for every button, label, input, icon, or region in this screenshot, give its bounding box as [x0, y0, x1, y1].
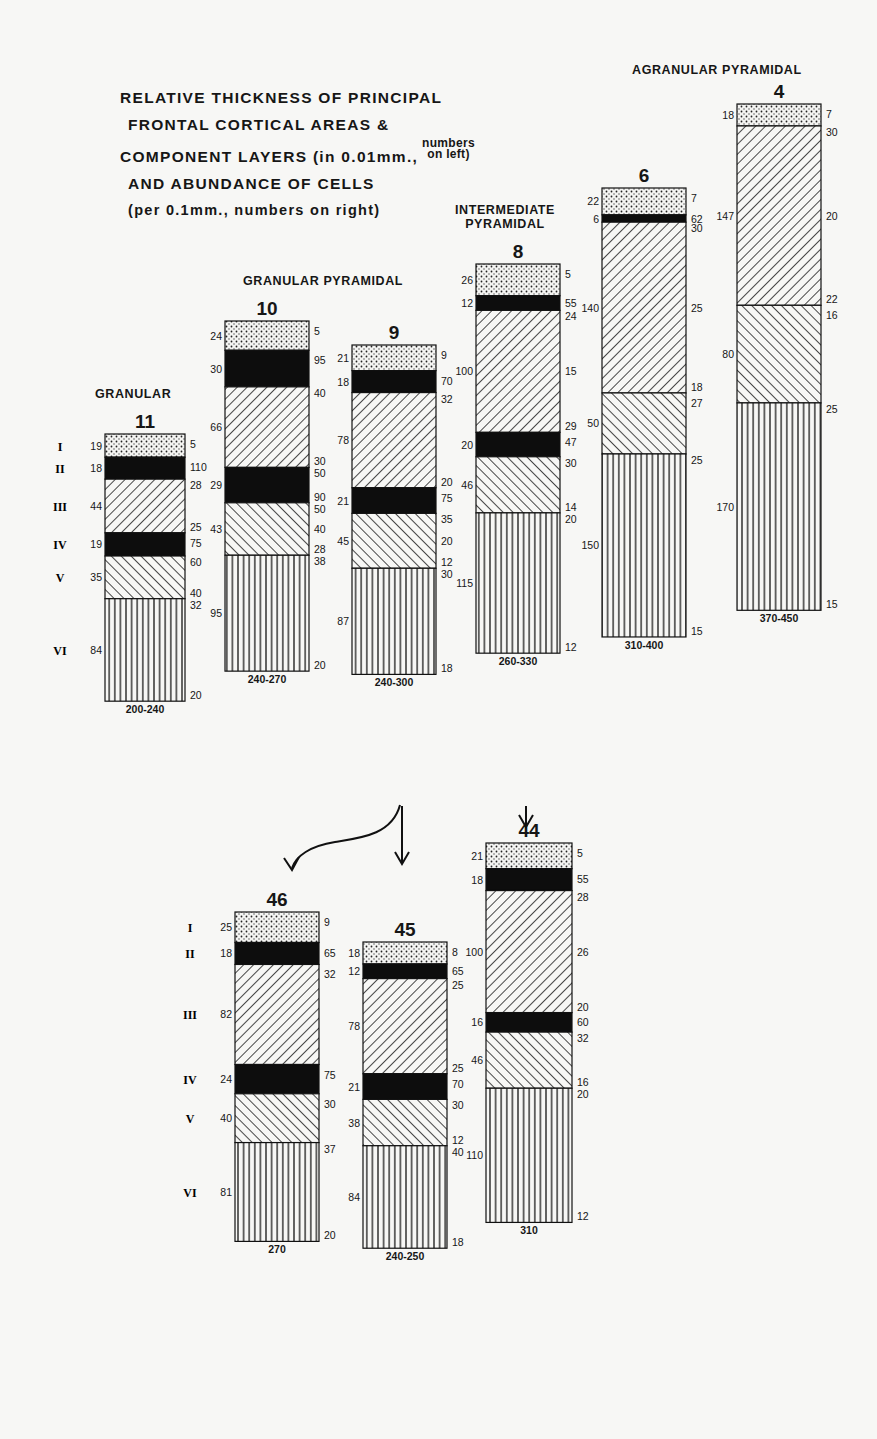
layer-thickness-label: 147 — [716, 210, 734, 222]
cell-count-label: 50 — [314, 467, 326, 479]
layer-II-band — [602, 215, 686, 222]
layer-II-band — [363, 964, 447, 979]
layer-thickness-label: 20 — [461, 439, 473, 451]
cell-count-label: 7 — [691, 192, 697, 204]
cell-count-label: 35 — [441, 513, 453, 525]
layer-thickness-label: 45 — [337, 535, 349, 547]
cell-count-label: 22 — [826, 293, 838, 305]
cell-count-label: 25 — [691, 302, 703, 314]
area-number: 6 — [639, 165, 650, 186]
cell-count-label: 37 — [324, 1143, 336, 1155]
layer-thickness-label: 38 — [348, 1117, 360, 1129]
arrow-9-to-46 — [292, 805, 400, 868]
column-area-46: 46259I1865II8232III2475IV4030V813720VI27… — [183, 889, 336, 1255]
cell-count-label: 20 — [441, 535, 453, 547]
column-area-6: 622766214030251850271502515310-400 — [581, 165, 702, 651]
layer-II-band — [225, 350, 309, 387]
layer-thickness-label: 100 — [465, 946, 483, 958]
layer-thickness-label: 21 — [471, 850, 483, 862]
cell-count-label: 65 — [452, 965, 464, 977]
total-thickness-label: 240-300 — [375, 676, 414, 688]
cell-count-label: 30 — [452, 1099, 464, 1111]
layer-thickness-label: 110 — [466, 1149, 483, 1161]
layer-thickness-label: 6 — [593, 213, 599, 225]
layer-I-band — [105, 434, 185, 457]
layer-thickness-label: 170 — [716, 501, 734, 513]
layer-thickness-label: 140 — [581, 302, 599, 314]
cell-count-label: 12 — [452, 1134, 464, 1146]
layer-thickness-label: 16 — [471, 1016, 483, 1028]
cell-count-label: 12 — [577, 1210, 589, 1222]
cell-count-label: 47 — [565, 436, 577, 448]
cell-count-label: 65 — [324, 947, 336, 959]
layer-IV-band — [352, 488, 436, 514]
layer-VI-band — [225, 555, 309, 671]
total-thickness-label: 370-450 — [760, 612, 799, 624]
layer-III-band — [352, 393, 436, 488]
layer-VI-band — [737, 403, 821, 610]
roman-numeral-IV: IV — [183, 1073, 197, 1087]
layer-thickness-label: 84 — [348, 1191, 360, 1203]
layer-thickness-label: 18 — [471, 874, 483, 886]
cell-count-label: 40 — [314, 387, 326, 399]
area-number: 10 — [256, 298, 277, 319]
layer-IV-band — [486, 1013, 572, 1033]
layer-VI-band — [235, 1143, 319, 1242]
layer-IV-band — [363, 1074, 447, 1100]
cell-count-label: 20 — [190, 689, 202, 701]
layer-thickness-label: 21 — [337, 352, 349, 364]
layer-thickness-label: 66 — [210, 421, 222, 433]
cell-count-label: 30 — [441, 568, 453, 580]
layer-III-band — [602, 222, 686, 393]
layer-thickness-label: 29 — [210, 479, 222, 491]
cell-count-label: 30 — [314, 455, 326, 467]
layer-III-band — [105, 479, 185, 533]
cell-count-label: 40 — [190, 587, 202, 599]
layer-thickness-label: 82 — [220, 1008, 232, 1020]
cell-count-label: 32 — [441, 393, 453, 405]
layer-thickness-label: 19 — [90, 538, 102, 550]
cell-count-label: 15 — [826, 598, 838, 610]
roman-numeral-II: II — [55, 462, 65, 476]
cell-count-label: 7 — [826, 108, 832, 120]
area-number: 11 — [135, 411, 156, 432]
cell-count-label: 60 — [577, 1016, 589, 1028]
layer-thickness-label: 87 — [337, 615, 349, 627]
layer-thickness-label: 115 — [456, 577, 473, 589]
roman-numeral-VI: VI — [53, 644, 67, 658]
cell-count-label: 16 — [826, 309, 838, 321]
layer-IV-band — [235, 1065, 319, 1094]
cell-count-label: 5 — [314, 325, 320, 337]
layer-VI-band — [363, 1146, 447, 1248]
layer-thickness-label: 30 — [210, 363, 222, 375]
cell-count-label: 40 — [452, 1146, 464, 1158]
total-thickness-label: 260-330 — [499, 655, 538, 667]
layer-thickness-label: 46 — [471, 1054, 483, 1066]
roman-numeral-V: V — [56, 571, 65, 585]
area-number: 9 — [389, 322, 400, 343]
cell-count-label: 18 — [441, 662, 453, 674]
layer-thickness-label: 50 — [587, 417, 599, 429]
roman-numeral-IV: IV — [53, 538, 67, 552]
layer-thickness-label: 150 — [581, 539, 599, 551]
layer-IV-band — [105, 533, 185, 556]
layer-V-band — [105, 556, 185, 599]
cell-count-label: 9 — [441, 349, 447, 361]
layer-I-band — [602, 188, 686, 215]
roman-numeral-VI: VI — [183, 1186, 197, 1200]
layer-thickness-label: 19 — [90, 440, 102, 452]
layer-thickness-label: 100 — [455, 365, 473, 377]
layer-thickness-label: 35 — [90, 571, 102, 583]
cell-count-label: 32 — [577, 1032, 589, 1044]
cell-count-label: 38 — [314, 555, 326, 567]
cell-count-label: 28 — [577, 891, 589, 903]
total-thickness-label: 240-250 — [386, 1250, 425, 1262]
area-number: 4 — [774, 81, 785, 102]
layer-III-band — [737, 126, 821, 305]
layer-thickness-label: 22 — [587, 195, 599, 207]
cell-count-label: 16 — [577, 1076, 589, 1088]
cell-count-label: 15 — [565, 365, 577, 377]
layer-I-band — [235, 912, 319, 943]
roman-numeral-II: II — [185, 947, 195, 961]
columns-group: 11195I18110II442825III1975IV356040V84322… — [53, 81, 838, 1262]
